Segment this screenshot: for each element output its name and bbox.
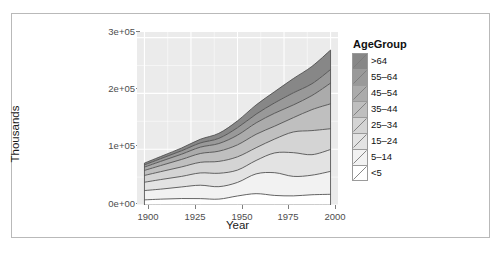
legend-item[interactable]: >64 [352, 53, 462, 69]
y-tick-2e05: 2e+05 [93, 83, 135, 95]
y-axis-ticks: 3e+05 2e+05 1e+05 0e+00 [50, 14, 135, 239]
legend-item[interactable]: 35–44 [352, 101, 462, 117]
x-tickmark [335, 205, 336, 209]
legend-label: 15–24 [371, 133, 397, 149]
legend-swatch [352, 133, 368, 149]
legend-swatch [352, 149, 368, 165]
stacked-area-plot [137, 32, 338, 205]
legend-item[interactable]: 5–14 [352, 149, 462, 165]
x-tickmark [288, 205, 289, 209]
legend-rows: >6455–6445–5435–4425–3415–245–14<5 [352, 53, 462, 181]
legend-swatch [352, 165, 368, 181]
legend-swatch [352, 101, 368, 117]
legend-swatch [352, 85, 368, 101]
y-tick-3e05: 3e+05 [93, 26, 135, 38]
legend-label: 5–14 [371, 149, 392, 165]
legend-item[interactable]: 15–24 [352, 133, 462, 149]
legend-label: 35–44 [371, 101, 397, 117]
legend-item[interactable]: <5 [352, 165, 462, 181]
legend-swatch [352, 53, 368, 69]
legend-label: 25–34 [371, 117, 397, 133]
legend-label: <5 [371, 165, 382, 181]
legend-swatch [352, 117, 368, 133]
legend-title: AgeGroup [353, 38, 462, 50]
legend: AgeGroup >6455–6445–5435–4425–3415–245–1… [352, 38, 462, 181]
chart-figure: Thousands 3e+05 2e+05 1e+05 0e+00 1900 [11, 13, 490, 238]
legend-item[interactable]: 45–54 [352, 85, 462, 101]
x-axis-title: Year [137, 219, 338, 231]
y-tick-1e05: 1e+05 [93, 140, 135, 152]
legend-label: >64 [371, 53, 387, 69]
legend-swatch [352, 69, 368, 85]
legend-label: 55–64 [371, 69, 397, 85]
x-tickmark [195, 205, 196, 209]
legend-label: 45–54 [371, 85, 397, 101]
x-tickmark [148, 205, 149, 209]
y-tick-0e00: 0e+00 [93, 198, 135, 210]
legend-item[interactable]: 55–64 [352, 69, 462, 85]
x-tickmark [242, 205, 243, 209]
plot-panel [137, 32, 338, 205]
y-axis-title: Thousands [9, 74, 25, 194]
legend-item[interactable]: 25–34 [352, 117, 462, 133]
